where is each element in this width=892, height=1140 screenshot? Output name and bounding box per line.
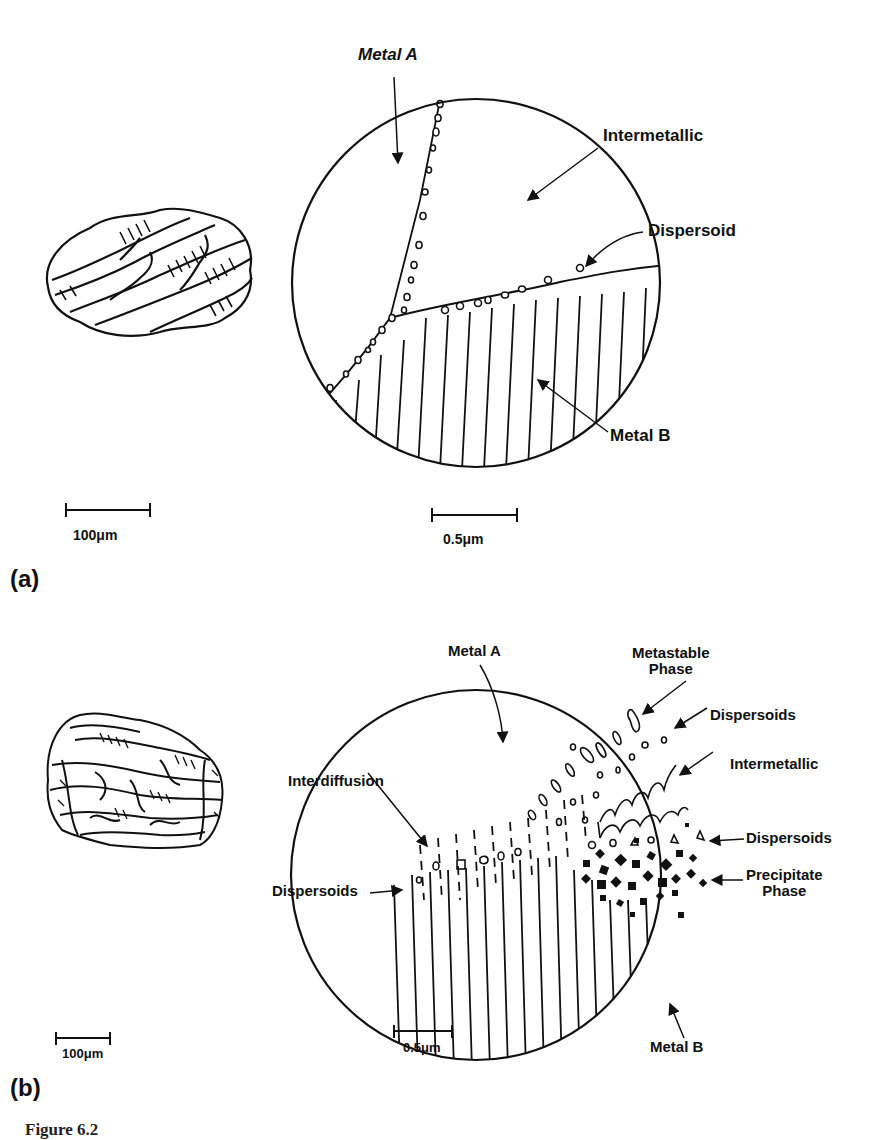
scale-label-05um-a: 0.5μm xyxy=(443,531,483,547)
scale-bars-b xyxy=(56,1025,452,1045)
label-metal-b-top: Metal B xyxy=(610,427,670,445)
figure-caption: Figure 6.2 xyxy=(25,1120,98,1140)
label-metal-a-top: Metal A xyxy=(358,46,418,64)
arrows-b xyxy=(368,665,744,1038)
scale-label-100um-b: 100μm xyxy=(62,1046,103,1061)
micrograph-circle-b xyxy=(291,690,707,1070)
label-dispersoids-left: Dispersoids xyxy=(272,883,358,899)
label-dispersoid: Dispersoid xyxy=(648,222,736,240)
scale-label-05um-b: 0.5μm xyxy=(403,1040,441,1055)
powder-particle-b xyxy=(48,713,223,848)
label-dispersoids-top: Dispersoids xyxy=(710,707,796,723)
micrograph-circle-a xyxy=(280,90,680,470)
label-precipitate-phase: Precipitate Phase xyxy=(746,867,823,899)
label-intermetallic-bottom: Intermetallic xyxy=(730,756,818,772)
label-metal-a-bottom: Metal A xyxy=(448,643,501,659)
label-interdiffusion: Interdiffusion xyxy=(288,773,384,789)
label-metal-b-bottom: Metal B xyxy=(650,1039,703,1055)
label-dispersoids-right: Dispersoids xyxy=(746,830,832,846)
scale-bars-a xyxy=(66,503,517,522)
panel-label-a: (a) xyxy=(10,565,39,593)
label-intermetallic-top: Intermetallic xyxy=(603,127,703,145)
powder-particle-a xyxy=(47,209,252,336)
panel-label-b: (b) xyxy=(10,1074,41,1102)
label-metastable-phase: Metastable Phase xyxy=(632,645,710,677)
scale-label-100um-a: 100μm xyxy=(73,527,117,543)
